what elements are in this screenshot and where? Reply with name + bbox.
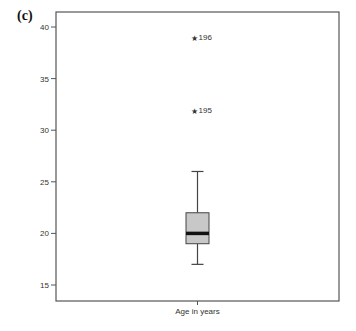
y-tick-label: 35 (40, 75, 49, 84)
outlier-star-icon: ★ (191, 34, 198, 43)
y-tick-label: 30 (40, 126, 49, 135)
iqr-box (186, 213, 209, 244)
x-category-label: Age in years (175, 307, 219, 316)
outlier-label: 195 (199, 106, 213, 115)
y-tick-label: 25 (40, 178, 49, 187)
y-tick-label: 15 (40, 281, 49, 290)
outlier-label: 196 (199, 33, 213, 42)
y-tick-label: 20 (40, 229, 49, 238)
box-plot: 152025303540Age in years★196★195 (0, 0, 356, 331)
outlier-star-icon: ★ (191, 107, 198, 116)
y-tick-label: 40 (40, 23, 49, 32)
